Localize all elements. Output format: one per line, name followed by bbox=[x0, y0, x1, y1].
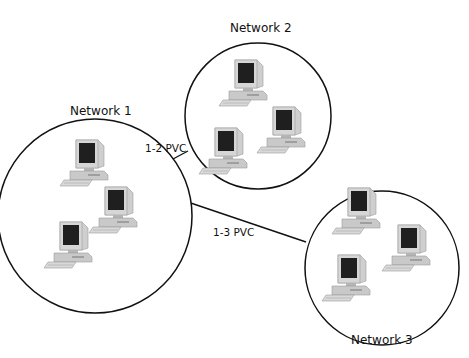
link-1-2-label: 1-2 PVC bbox=[145, 142, 186, 154]
link-1-3-label: 1-3 PVC bbox=[213, 226, 254, 238]
network-3-label: Network 3 bbox=[351, 333, 413, 347]
network-3-node bbox=[305, 191, 459, 345]
network-2-label: Network 2 bbox=[230, 21, 292, 35]
network-1-label: Network 1 bbox=[70, 104, 132, 118]
network-diagram: Network 1 Network 2 Network 3 1-2 PVC 1-… bbox=[0, 0, 469, 358]
